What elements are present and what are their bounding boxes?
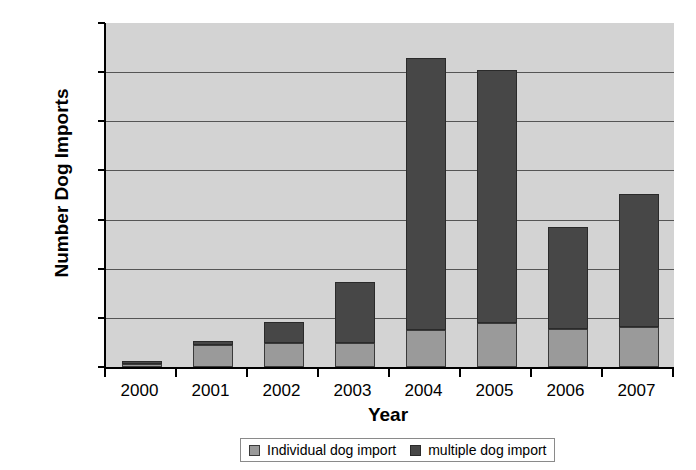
bar-segment <box>122 364 162 367</box>
bar-segment <box>264 343 304 367</box>
y-axis-title: Number Dog Imports <box>51 23 73 343</box>
gridline <box>106 72 674 73</box>
legend-entry: multiple dog import <box>410 442 546 458</box>
x-tick-label: 2002 <box>242 381 322 401</box>
bar-segment <box>477 323 517 367</box>
x-tick-label: 2006 <box>526 381 606 401</box>
x-tick-mark <box>388 369 390 377</box>
x-tick-label: 2007 <box>597 381 677 401</box>
legend-label: Individual dog import <box>267 442 396 458</box>
bar-stack <box>193 23 233 367</box>
x-tick-mark <box>175 369 177 377</box>
plot-area <box>104 23 674 369</box>
bar-stack <box>122 23 162 367</box>
gridline <box>106 121 674 122</box>
bar-segment <box>619 194 659 327</box>
x-tick-mark <box>672 369 674 377</box>
gridline <box>106 220 674 221</box>
x-tick-mark <box>459 369 461 377</box>
x-tick-label: 2001 <box>171 381 251 401</box>
x-tick-label: 2000 <box>100 381 180 401</box>
gridline <box>106 318 674 319</box>
legend-swatch-icon <box>410 445 421 456</box>
x-tick-mark <box>104 369 106 377</box>
bar-segment <box>477 70 517 323</box>
bar-segment <box>548 329 588 367</box>
bar-segment <box>619 327 659 367</box>
bar-stack <box>335 23 375 367</box>
bar-stack <box>619 23 659 367</box>
bar-segment <box>335 343 375 367</box>
legend-entry: Individual dog import <box>249 442 396 458</box>
dog-imports-bar-chart: Number Dog Imports 050010001500200025003… <box>0 0 696 470</box>
bar-segment <box>406 58 446 330</box>
x-tick-label: 2003 <box>313 381 393 401</box>
legend-label: multiple dog import <box>428 442 546 458</box>
x-tick-mark <box>530 369 532 377</box>
bar-segment <box>193 345 233 367</box>
bar-stack <box>264 23 304 367</box>
bar-segment <box>406 330 446 367</box>
gridline <box>106 269 674 270</box>
x-tick-mark <box>601 369 603 377</box>
x-tick-label: 2004 <box>384 381 464 401</box>
bar-segment <box>548 227 588 329</box>
chart-legend: Individual dog importmultiple dog import <box>240 438 555 462</box>
bar-segment <box>335 282 375 343</box>
bar-stack <box>406 23 446 367</box>
bar-segment <box>122 361 162 364</box>
bar-stack <box>548 23 588 367</box>
bar-stack <box>477 23 517 367</box>
legend-swatch-icon <box>249 445 260 456</box>
x-axis-title: Year <box>104 404 672 426</box>
x-tick-mark <box>317 369 319 377</box>
bar-segment <box>193 341 233 345</box>
bar-segment <box>264 322 304 343</box>
x-tick-label: 2005 <box>455 381 535 401</box>
x-tick-mark <box>246 369 248 377</box>
gridline <box>106 170 674 171</box>
